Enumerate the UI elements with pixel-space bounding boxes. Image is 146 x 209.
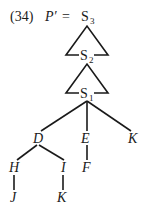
svg-text:3: 3 [90,16,95,26]
svg-text:S: S [80,86,88,101]
svg-text:2: 2 [89,55,94,65]
node-s1: S 1 [80,86,94,103]
node-h: H [8,160,20,175]
example-number: (34) [10,9,34,25]
node-s2: S 2 [80,48,94,65]
svg-text:1: 1 [89,93,94,103]
equals-sign: = [62,9,70,24]
svg-text:S: S [81,9,89,24]
node-e: E [80,131,90,146]
node-f: F [81,160,91,175]
node-j: J [10,190,17,205]
edge-s1-d [41,101,87,131]
edge-s1-k [87,101,131,131]
node-d: D [32,131,43,146]
node-k2: K [56,190,67,205]
lhs-symbol: P′ [44,9,58,24]
node-k1: K [127,131,138,146]
edge-d-i [39,145,64,160]
edge-d-h [17,145,37,160]
node-s3: S 3 [81,9,95,26]
svg-text:S: S [80,48,88,63]
tree-diagram: (34) P′ = S 3 S 2 S 1 D E K H I F J K [0,0,146,209]
node-i: I [60,160,67,175]
